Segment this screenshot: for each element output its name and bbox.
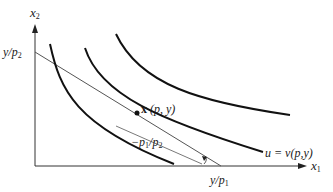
- y-intercept-label: y/p2: [3, 46, 22, 60]
- indirect-utility-label: u = v(p,y): [265, 147, 313, 159]
- x2-axis-label: x2: [30, 6, 40, 21]
- x-intercept-label: y/p1: [210, 174, 229, 188]
- optimum-point: [135, 111, 140, 116]
- x2-axis-arrow-icon: [32, 24, 38, 33]
- optimum-label: x (p, y): [141, 103, 175, 115]
- x1-axis-label: x1: [311, 159, 321, 174]
- slope-label: −p1/p2: [131, 136, 162, 150]
- budget-line: [35, 52, 221, 166]
- indifference-curve-diagram: [0, 0, 333, 192]
- indifference-curve-mid: [85, 48, 263, 152]
- x1-axis-arrow-icon: [298, 163, 307, 169]
